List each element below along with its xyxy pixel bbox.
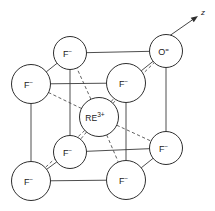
edge-depth-top-left [46,63,57,72]
bond-to-back-bottom-left [81,132,87,139]
bond-to-front-bottom-right [107,135,119,162]
oxide-back-top-right-charge: = [165,45,169,52]
fluoride-back-top-left-charge: − [68,47,72,54]
crystal-structure-diagram: z F−O=F−F−RE3+F−F−F−F− [0,0,215,211]
fluoride-front-bottom-right: F− [107,161,146,200]
crystal-structure-figure: z F−O=F−F−RE3+F−F−F−F− [0,0,215,211]
edge-back-top [86,51,149,52]
fluoride-front-top-left: F− [12,65,51,104]
fluoride-front-bottom-left: F− [12,162,51,201]
fluoride-front-bottom-left-charge: − [29,175,33,182]
oxide-back-top-right: O= [150,35,183,68]
bond-to-front-top-left [49,93,82,109]
edge-back-bottom [86,149,149,152]
edge-front-bottom [50,180,106,181]
fluoride-back-bottom-right: F− [150,132,183,165]
fluoride-back-bottom-right-charge: − [164,142,168,149]
bond-to-front-top-right [111,98,114,101]
fluoride-back-bottom-left-charge: − [68,146,72,153]
fluoride-back-top-left: F− [54,37,87,70]
edge-depth-top-right [141,61,153,71]
bond-to-back-bottom-right [117,125,151,141]
oxide-back-top-right-element: O [158,47,165,57]
rare-earth-ion: RE3+ [80,98,119,137]
fluoride-back-bottom-left: F− [54,136,87,169]
rare-earth-ion-charge: 3+ [97,111,105,118]
z-axis-arrowhead [191,16,198,22]
fluoride-front-bottom-right-charge: − [124,174,128,181]
fluoride-front-top-left-charge: − [29,78,33,85]
edge-front-top [50,83,106,84]
edge-depth-bottom-right [141,158,153,168]
fluoride-front-top-right: F− [107,64,146,103]
fluoride-front-top-right-charge: − [124,77,128,84]
edge-depth-bottom-left [47,162,57,170]
ions-group: F−O=F−F−RE3+F−F−F−F− [12,35,183,201]
rare-earth-ion-element: RE [85,113,97,123]
z-axis-label: z [200,8,205,17]
